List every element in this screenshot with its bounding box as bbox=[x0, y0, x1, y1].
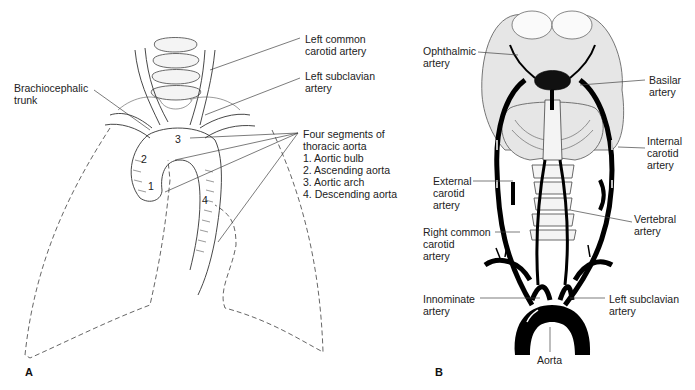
label-right-common-carotid: Right common carotid artery bbox=[423, 226, 491, 262]
label-internal-carotid: Internal carotid artery bbox=[647, 135, 682, 171]
label-aorta: Aorta bbox=[537, 354, 562, 366]
label-left-subclavian-b: Left subclavian artery bbox=[609, 293, 679, 317]
panel-b-drawing bbox=[0, 0, 695, 390]
panel-b-letter: B bbox=[435, 366, 443, 378]
aortic-arch-b bbox=[515, 305, 590, 355]
label-ophthalmic: Ophthalmic artery bbox=[423, 45, 476, 69]
label-innominate: Innominate artery bbox=[423, 293, 475, 317]
label-external-carotid: External carotid artery bbox=[433, 175, 472, 211]
label-vertebral: Vertebral artery bbox=[634, 213, 676, 237]
label-basilar: Basilar artery bbox=[649, 74, 681, 98]
